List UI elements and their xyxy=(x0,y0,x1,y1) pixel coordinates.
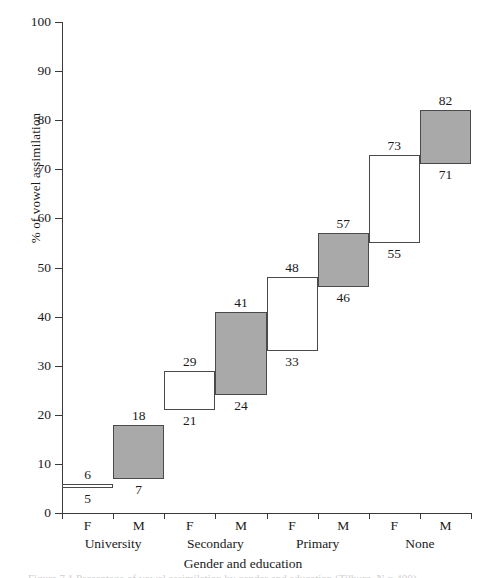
bar-lower-value-label: 21 xyxy=(183,414,197,428)
x-gender-label-6: F xyxy=(391,519,399,533)
x-tick-mark xyxy=(113,513,114,519)
x-group-label-none: None xyxy=(405,537,434,551)
x-tick-mark xyxy=(267,513,268,519)
x-gender-label-1: M xyxy=(133,519,145,533)
bar-lower-value-label: 55 xyxy=(388,247,402,261)
y-tick-label: 60 xyxy=(38,212,52,226)
x-axis-title: Gender and education xyxy=(0,557,486,571)
bar-primary-m xyxy=(318,233,369,287)
y-tick-mark xyxy=(55,366,62,367)
y-tick-mark xyxy=(55,22,62,23)
y-tick-label: 20 xyxy=(38,408,52,422)
bar-lower-value-label: 33 xyxy=(285,355,299,369)
y-tick-mark xyxy=(55,513,62,514)
y-tick-label: 50 xyxy=(38,261,52,275)
bar-secondary-m xyxy=(215,312,266,395)
bar-university-f xyxy=(62,484,113,489)
bar-primary-f xyxy=(267,277,318,351)
x-gender-label-4: F xyxy=(288,519,296,533)
x-tick-mark xyxy=(215,513,216,519)
x-tick-mark xyxy=(318,513,319,519)
x-tick-mark xyxy=(420,513,421,519)
bar-university-m xyxy=(113,425,164,479)
x-tick-mark xyxy=(164,513,165,519)
bar-upper-value-label: 73 xyxy=(388,139,402,153)
y-tick-label: 100 xyxy=(31,15,51,29)
x-group-label-university: University xyxy=(85,537,142,551)
y-tick-mark xyxy=(55,464,62,465)
y-tick-label: 10 xyxy=(38,457,52,471)
y-tick-mark xyxy=(55,120,62,121)
y-tick-label: 70 xyxy=(38,163,52,177)
x-gender-label-3: M xyxy=(235,519,247,533)
bar-secondary-f xyxy=(164,371,215,410)
bar-lower-value-label: 7 xyxy=(135,483,142,497)
x-gender-label-7: M xyxy=(439,519,451,533)
bar-lower-value-label: 5 xyxy=(84,492,91,506)
y-tick-mark xyxy=(55,317,62,318)
y-tick-mark xyxy=(55,71,62,72)
y-tick-label: 40 xyxy=(38,310,52,324)
bar-upper-value-label: 41 xyxy=(234,296,248,310)
y-tick-label: 90 xyxy=(38,64,52,78)
x-tick-mark xyxy=(62,513,63,519)
x-group-label-secondary: Secondary xyxy=(187,537,244,551)
figure-caption: Figure 7.1 Percentage of vowel assimilat… xyxy=(28,572,468,578)
bar-lower-value-label: 71 xyxy=(439,168,453,182)
x-group-label-primary: Primary xyxy=(296,537,340,551)
y-tick-label: 0 xyxy=(44,506,51,520)
x-gender-label-0: F xyxy=(84,519,92,533)
y-tick-mark xyxy=(55,268,62,269)
y-tick-mark xyxy=(55,218,62,219)
figure-root: % of vowel assimilation 0102030405060708… xyxy=(0,0,486,578)
bar-none-m xyxy=(420,110,471,164)
bar-lower-value-label: 46 xyxy=(336,291,350,305)
bar-upper-value-label: 57 xyxy=(336,217,350,231)
y-axis-line xyxy=(62,22,63,513)
x-gender-label-2: F xyxy=(186,519,194,533)
bar-lower-value-label: 24 xyxy=(234,399,248,413)
y-tick-label: 30 xyxy=(38,359,52,373)
x-tick-mark xyxy=(369,513,370,519)
y-tick-label: 80 xyxy=(38,113,52,127)
bar-upper-value-label: 29 xyxy=(183,355,197,369)
bar-upper-value-label: 18 xyxy=(132,409,146,423)
y-tick-mark xyxy=(55,415,62,416)
y-tick-mark xyxy=(55,169,62,170)
bar-upper-value-label: 48 xyxy=(285,261,299,275)
bar-upper-value-label: 82 xyxy=(439,94,453,108)
x-tick-mark xyxy=(471,513,472,519)
bar-none-f xyxy=(369,155,420,243)
x-gender-label-5: M xyxy=(337,519,349,533)
bar-upper-value-label: 6 xyxy=(84,468,91,482)
